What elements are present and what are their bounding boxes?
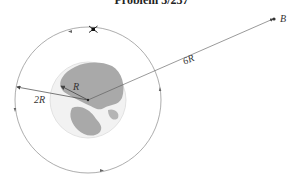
- earth-radius-label: R: [72, 81, 79, 92]
- orbit-direction-arrow-top: [68, 30, 72, 33]
- orbit-radius-label: 2R: [34, 94, 45, 105]
- point-b-dot: [272, 17, 275, 20]
- orbit-direction-arrow-right: [159, 87, 162, 91]
- point-b-label: B: [280, 13, 286, 24]
- earth-center-dot: [87, 99, 89, 101]
- distance-to-b-label: 6R: [181, 52, 196, 66]
- orbit-diagram: R 2R 6R B: [0, 0, 303, 181]
- distance-to-b-line: [88, 19, 273, 100]
